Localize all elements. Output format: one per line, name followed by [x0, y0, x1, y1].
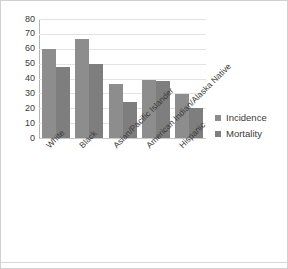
y-tick-label-60: 60 [3, 44, 35, 53]
y-tick-label-0: 0 [3, 134, 35, 143]
bar-incidence[interactable] [109, 84, 123, 138]
legend-label: Incidence [226, 113, 267, 123]
y-tick-label-70: 70 [3, 29, 35, 38]
y-tick-label-50: 50 [3, 59, 35, 68]
legend-item-incidence[interactable]: Incidence [215, 113, 287, 123]
y-tick-label-80: 80 [3, 15, 35, 24]
y-tick-label-10: 10 [3, 119, 35, 128]
legend-label: Mortality [226, 129, 262, 139]
legend-swatch-icon [215, 115, 221, 121]
y-tick-label-30: 30 [3, 89, 35, 98]
y-tick-label-40: 40 [3, 74, 35, 83]
legend-swatch-icon [215, 131, 221, 137]
bar-group [42, 19, 70, 138]
bar-incidence[interactable] [42, 49, 56, 138]
legend: IncidenceMortality [215, 113, 287, 145]
bottom-divider [1, 262, 288, 263]
y-axis-tick-labels: 80706050403020100 [1, 19, 35, 138]
y-tick-label-20: 20 [3, 104, 35, 113]
legend-item-mortality[interactable]: Mortality [215, 129, 287, 139]
bar-incidence[interactable] [75, 39, 89, 138]
bar-group [75, 19, 103, 138]
bar-chart-figure: 80706050403020100 WhiteBlackAsian/Pacifi… [0, 0, 288, 269]
